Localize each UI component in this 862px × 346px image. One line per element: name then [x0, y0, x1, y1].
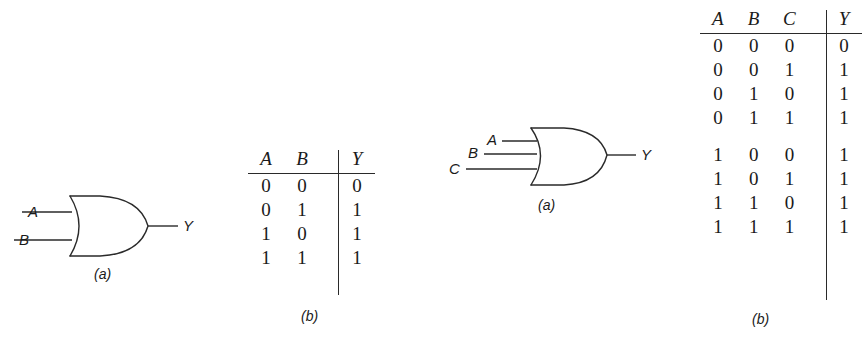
- cell-a: 0: [700, 106, 736, 130]
- cell-a: 0: [700, 34, 736, 59]
- table-row: 1 0 0 1: [700, 143, 862, 167]
- cell-y: 1: [826, 106, 862, 130]
- table-row: 1 1 0 1: [700, 191, 862, 215]
- cell-divider: [320, 174, 339, 199]
- cell-b: 0: [736, 34, 772, 59]
- cell-a: 1: [248, 222, 284, 246]
- cell-y: 1: [826, 191, 862, 215]
- cell-b: 0: [284, 174, 320, 199]
- truth-table-3: A B C Y 0 0 0 0 0: [700, 8, 862, 239]
- cell-y: 0: [339, 174, 375, 199]
- cell-b: 0: [736, 143, 772, 167]
- gap-b: [736, 130, 772, 143]
- or-gate-back-arc: [70, 196, 79, 256]
- table-header-row: A B C Y: [700, 8, 862, 33]
- header-divider: [320, 148, 339, 173]
- gate3-caption: (a): [538, 198, 555, 212]
- input-label-a: A: [28, 204, 38, 219]
- input-label-c: C: [449, 161, 460, 176]
- cell-y: 1: [826, 215, 862, 239]
- cell-b: 1: [284, 198, 320, 222]
- cell-c: 0: [772, 82, 808, 106]
- cell-a: 0: [700, 58, 736, 82]
- cell-b: 0: [736, 167, 772, 191]
- table-row: 0 1 1: [248, 198, 375, 222]
- three-input-or-truth-table: A B C Y 0 0 0 0 0: [700, 8, 862, 239]
- input-label-a: A: [487, 132, 497, 147]
- cell-a: 1: [700, 143, 736, 167]
- cell-divider: [807, 58, 826, 82]
- header-a: A: [700, 8, 736, 33]
- cell-divider: [807, 167, 826, 191]
- gap-y: [826, 130, 862, 143]
- cell-c: 0: [772, 143, 808, 167]
- gap-a: [700, 130, 736, 143]
- cell-b: 0: [736, 58, 772, 82]
- cell-a: 1: [700, 215, 736, 239]
- two-input-or-truth-table: A B Y 0 0 0 0 1 1: [248, 148, 375, 270]
- cell-a: 1: [700, 167, 736, 191]
- or-gate-body-outline: [531, 128, 607, 185]
- table-row: 1 0 1 1: [700, 167, 862, 191]
- or-gate-body-outline: [70, 196, 148, 256]
- cell-b: 1: [736, 82, 772, 106]
- header-b: B: [736, 8, 772, 33]
- cell-b: 1: [284, 246, 320, 270]
- cell-y: 1: [826, 82, 862, 106]
- cell-a: 1: [700, 191, 736, 215]
- header-c: C: [772, 8, 808, 33]
- table-header-row: A B Y: [248, 148, 375, 173]
- table2-caption: (b): [301, 308, 318, 324]
- cell-divider: [320, 222, 339, 246]
- cell-y: 1: [339, 222, 375, 246]
- table3-caption: (b): [752, 311, 769, 327]
- cell-c: 1: [772, 167, 808, 191]
- cell-divider: [320, 246, 339, 270]
- cell-b: 0: [284, 222, 320, 246]
- header-divider: [807, 8, 826, 33]
- cell-b: 1: [736, 106, 772, 130]
- cell-c: 0: [772, 191, 808, 215]
- table3-vertical-rule: [826, 10, 827, 300]
- table-row: 1 0 1: [248, 222, 375, 246]
- cell-y: 1: [339, 198, 375, 222]
- input-label-b: B: [19, 232, 29, 247]
- cell-a: 0: [700, 82, 736, 106]
- output-label-y: Y: [183, 218, 193, 233]
- cell-divider: [807, 106, 826, 130]
- gate2-caption: (a): [94, 267, 111, 281]
- cell-divider: [807, 143, 826, 167]
- table-row: 0 0 0 0: [700, 34, 862, 59]
- cell-b: 1: [736, 215, 772, 239]
- cell-y: 0: [826, 34, 862, 59]
- cell-c: 1: [772, 106, 808, 130]
- gap-c: [772, 130, 808, 143]
- or-gate-back-arc: [531, 128, 541, 185]
- cell-y: 1: [826, 167, 862, 191]
- table-row: 0 1 1 1: [700, 106, 862, 130]
- gap-divider: [807, 130, 826, 143]
- table-row: 1 1 1: [248, 246, 375, 270]
- cell-b: 1: [736, 191, 772, 215]
- cell-c: 0: [772, 34, 808, 59]
- cell-a: 0: [248, 174, 284, 199]
- cell-divider: [807, 82, 826, 106]
- table2-vertical-rule: [338, 150, 339, 295]
- output-label-y: Y: [641, 147, 651, 162]
- input-label-b: B: [468, 145, 478, 160]
- cell-a: 0: [248, 198, 284, 222]
- table-row-gap: [700, 130, 862, 143]
- cell-y: 1: [339, 246, 375, 270]
- table-row: 1 1 1 1: [700, 215, 862, 239]
- table-row: 0 0 0: [248, 174, 375, 199]
- header-b: B: [284, 148, 320, 173]
- truth-table-2: A B Y 0 0 0 0 1 1: [248, 148, 375, 270]
- cell-a: 1: [248, 246, 284, 270]
- cell-c: 1: [772, 215, 808, 239]
- cell-c: 1: [772, 58, 808, 82]
- table-row: 0 0 1 1: [700, 58, 862, 82]
- cell-divider: [807, 215, 826, 239]
- header-y: Y: [826, 8, 862, 33]
- cell-divider: [807, 191, 826, 215]
- table-row: 0 1 0 1: [700, 82, 862, 106]
